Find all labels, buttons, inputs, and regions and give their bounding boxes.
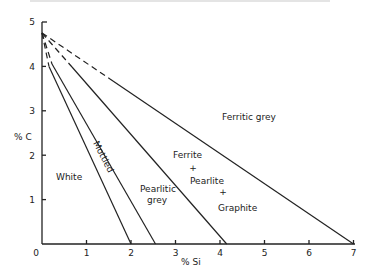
y-tick-1: 1 — [29, 195, 35, 205]
region-labels: White Mottled Pearlitic grey Ferrite + P… — [56, 112, 277, 213]
y-tick-5: 5 — [29, 17, 35, 27]
y-tick-3: 3 — [29, 106, 35, 116]
y-tick-labels: 5 4 3 2 1 — [29, 17, 35, 205]
region-pearlitic-line2: grey — [147, 195, 168, 205]
ferrite-ferritic-boundary — [110, 79, 354, 244]
boundary-lines — [42, 33, 354, 244]
region-graphite: Graphite — [218, 203, 258, 213]
region-white: White — [56, 172, 83, 182]
cast-iron-structure-diagram: 5 4 3 2 1 0 1 2 3 4 5 6 7 % C % Si White… — [0, 0, 368, 279]
x-tick-6: 6 — [306, 248, 312, 258]
region-ferritic-grey: Ferritic grey — [222, 112, 277, 122]
region-plus-1: + — [189, 163, 197, 173]
pearlitic-ferrite-boundary — [72, 67, 227, 244]
x-tick-7: 7 — [351, 248, 357, 258]
mottled-pearlitic-dashed — [42, 33, 52, 64]
region-mottled: Mottled — [91, 139, 115, 174]
x-tick-3: 3 — [173, 248, 179, 258]
axes — [42, 22, 355, 244]
x-tick-4: 4 — [217, 248, 223, 258]
region-plus-2: + — [219, 187, 227, 197]
x-axis-label: % Si — [181, 257, 201, 267]
y-tick-4: 4 — [29, 62, 35, 72]
region-pearlite: Pearlite — [190, 176, 224, 186]
region-ferrite: Ferrite — [173, 150, 202, 160]
region-pearlitic-line1: Pearlitic — [140, 184, 176, 194]
x-tick-5: 5 — [262, 248, 268, 258]
origin-label: 0 — [33, 248, 39, 258]
y-axis-label: % C — [14, 132, 32, 142]
white-mottled-boundary — [49, 66, 131, 244]
x-tick-2: 2 — [128, 248, 134, 258]
y-tick-2: 2 — [29, 151, 35, 161]
x-tick-1: 1 — [84, 248, 90, 258]
